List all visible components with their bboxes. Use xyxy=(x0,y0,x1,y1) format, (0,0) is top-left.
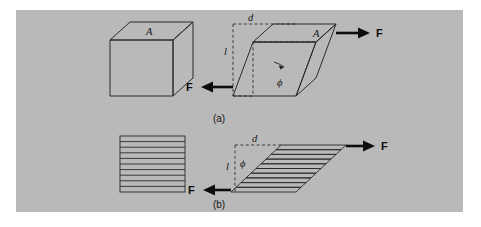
cube-area-label: A xyxy=(145,26,153,37)
plate-row xyxy=(266,154,336,159)
figure-panel: A d l ϕ A xyxy=(16,10,463,212)
plate-row xyxy=(231,187,301,192)
plate-row xyxy=(236,183,306,188)
plate-row xyxy=(256,164,326,169)
sheared-cube-a: d l ϕ A F F xyxy=(186,12,383,96)
shear-deformation-diagram: A d l ϕ A xyxy=(16,10,463,212)
force-arrow-right-head-b xyxy=(363,141,375,152)
undeformed-stack-b xyxy=(120,136,185,192)
force-label-right-a: F xyxy=(376,27,383,39)
stack-displacement-label-d: d xyxy=(252,133,258,144)
plate-row xyxy=(271,150,341,155)
undeformed-cube-a: A xyxy=(110,22,193,96)
sheared-area-label: A xyxy=(312,28,320,39)
sheared-top-face xyxy=(253,24,336,42)
force-label-left-b: F xyxy=(188,184,195,196)
force-arrow-left-a: F xyxy=(186,81,233,93)
sheared-stack-b: d l ϕ F F xyxy=(188,133,388,196)
cube-front-face xyxy=(110,40,173,96)
shear-angle-label-phi: ϕ xyxy=(277,77,283,88)
force-label-left-a: F xyxy=(186,81,193,93)
sheared-plate-lines xyxy=(231,145,346,192)
plate-row xyxy=(261,159,331,164)
sheared-front-face xyxy=(233,42,316,96)
stack-plate-lines xyxy=(120,142,185,187)
plate-row xyxy=(251,169,321,174)
plate-row xyxy=(276,145,346,150)
plate-row xyxy=(246,173,316,178)
caption-a: (a) xyxy=(213,113,225,124)
force-arrow-right-a: F xyxy=(336,27,383,39)
plate-row xyxy=(241,178,311,183)
figure-root: A d l ϕ A xyxy=(0,0,481,227)
height-label-l: l xyxy=(224,46,227,57)
force-arrow-left-head-b xyxy=(203,185,215,196)
stack-shear-angle-label-phi: ϕ xyxy=(240,158,246,169)
caption-b: (b) xyxy=(213,199,225,210)
displacement-label-d: d xyxy=(248,12,254,23)
stack-height-label-l: l xyxy=(226,161,229,172)
force-arrow-left-head xyxy=(201,82,213,93)
force-label-right-b: F xyxy=(381,140,388,152)
force-arrow-right-b: F xyxy=(346,140,388,152)
force-arrow-right-head xyxy=(358,28,370,39)
force-arrow-left-b: F xyxy=(188,184,231,196)
